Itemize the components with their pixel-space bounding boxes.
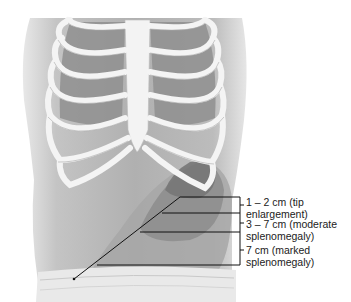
pointer-dot xyxy=(73,278,76,281)
label-tip-enlargement: 1 – 2 cm (tip enlargement) xyxy=(246,196,308,220)
label-moderate-line1: 3 – 7 cm (moderate xyxy=(246,218,337,230)
label-moderate-splenomegaly: 3 – 7 cm (moderate splenomegaly) xyxy=(246,218,337,242)
sternum xyxy=(125,20,150,152)
label-moderate-line2: splenomegaly) xyxy=(246,230,337,242)
label-marked-splenomegaly: 7 cm (marked splenomegaly) xyxy=(246,244,314,268)
waistband xyxy=(36,266,236,302)
label-marked-line2: splenomegaly) xyxy=(246,256,314,268)
label-marked-line1: 7 cm (marked xyxy=(246,244,314,256)
label-tip-line1: 1 – 2 cm (tip xyxy=(246,196,308,208)
